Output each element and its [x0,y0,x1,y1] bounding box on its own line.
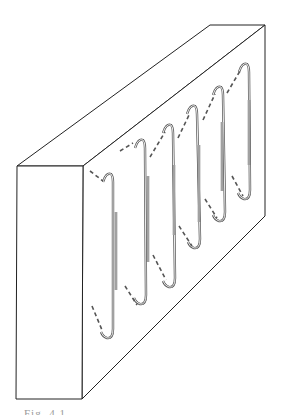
block [16,25,265,399]
figure-caption: Fig. 4.1 [24,408,66,415]
block-front-face [16,166,83,399]
block-with-hooks-illustration [0,0,282,415]
